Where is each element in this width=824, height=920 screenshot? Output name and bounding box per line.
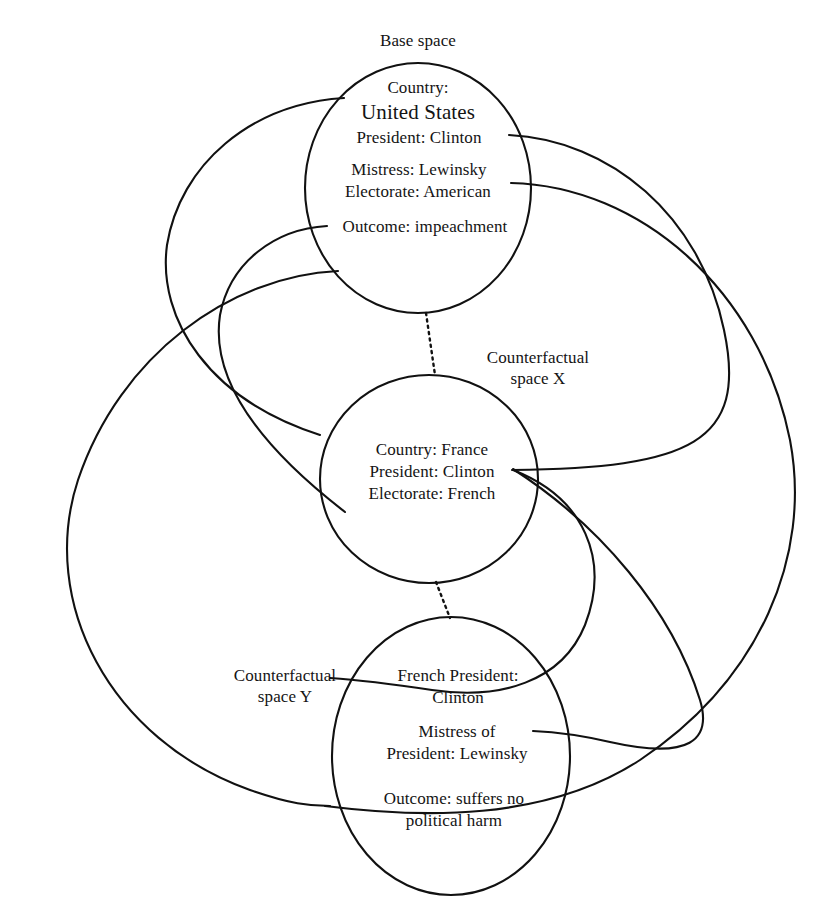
base-country-value: United States xyxy=(330,100,506,126)
base-space-title: Base space xyxy=(318,31,518,52)
counterfactual-y-title-line2: space Y xyxy=(200,687,370,708)
diagram-canvas: Base space Country: United States Presid… xyxy=(0,0,824,920)
cfy-outcome-line2: political harm xyxy=(348,811,560,832)
cfy-president-line1: French President: xyxy=(368,666,548,687)
cfy-mistress-line1: Mistress of xyxy=(364,722,550,743)
cfy-outcome-line1: Outcome: suffers no xyxy=(341,789,567,810)
mapping-arc-country-base-to-x xyxy=(166,98,344,435)
mapping-arc-outcome-base-to-x-electorate xyxy=(219,226,345,512)
mapping-arc-mistress-base-to-y xyxy=(67,271,338,806)
cfx-electorate: Electorate: French xyxy=(338,484,526,505)
counterfactual-x-title-line2: space X xyxy=(455,369,621,390)
cfx-country: Country: France xyxy=(338,440,526,461)
base-country-key: Country: xyxy=(338,78,498,99)
base-mistress: Mistress: Lewinsky xyxy=(322,160,516,181)
base-president: President: Clinton xyxy=(324,128,514,149)
cfy-president-line2: Clinton xyxy=(368,688,548,709)
cfy-mistress-line2: President: Lewinsky xyxy=(346,744,568,765)
base-outcome: Outcome: impeachment xyxy=(319,217,531,238)
cfx-president: President: Clinton xyxy=(338,462,526,483)
space-link-x-to-y xyxy=(436,582,450,618)
base-electorate: Electorate: American xyxy=(318,182,518,203)
counterfactual-x-title-line1: Counterfactual xyxy=(455,348,621,369)
counterfactual-y-title-line1: Counterfactual xyxy=(200,666,370,687)
space-link-base-to-x xyxy=(426,313,435,375)
